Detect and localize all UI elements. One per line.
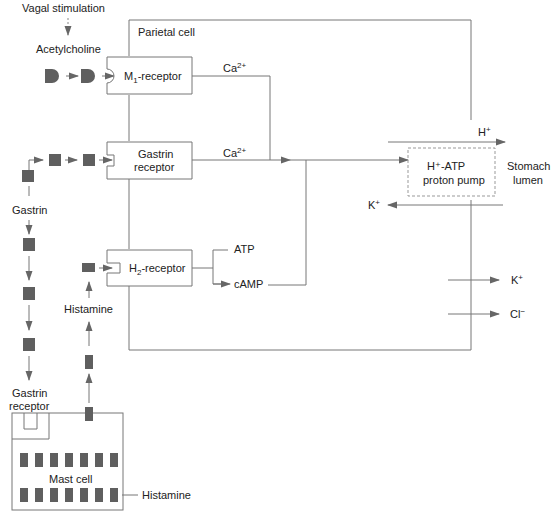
gastrin-label: Gastrin [12,204,47,216]
histamine-molecule [85,355,93,369]
arrow [29,160,43,170]
k-plus-in-label: K+ [368,198,380,211]
atp-branch [213,250,228,284]
gastrin-receptor-label-2: receptor [134,161,175,173]
acetylcholine-molecule-2 [81,69,95,83]
gastrin-molecule [23,338,35,351]
gastrin-molecule [23,287,35,300]
histamine-granule-releasing [85,407,93,421]
camp-join-line [268,160,306,285]
proton-pump-label-2: proton pump [423,174,485,186]
k-plus-out-label: K+ [511,273,523,286]
h-plus-label: H+ [478,125,491,138]
proton-pump-label-1: H⁺-ATP [427,160,465,172]
stomach-lumen-label-2: lumen [513,174,543,186]
gastrin-receptor-mast-label-1: Gastrin [12,387,47,399]
gastrin-receptor-mast-label-2: receptor [9,400,50,412]
acetylcholine-label: Acetylcholine [36,43,101,55]
vagal-stimulation-label: Vagal stimulation [22,2,105,14]
gastrin-molecule [22,170,34,182]
gastrin-molecule [83,154,95,166]
gastrin-molecule [23,238,35,251]
atp-label: ATP [234,243,255,255]
proton-pump-box [408,148,495,196]
histamine-granules-label: Histamine [142,489,191,501]
gastrin-molecule [49,154,61,166]
ca-label-1: Ca2+ [223,61,247,74]
acetylcholine-molecule-1 [45,69,59,83]
mast-cell-label: Mast cell [49,473,92,485]
gastrin-receptor-label-1: Gastrin [138,148,173,160]
stomach-lumen-label-1: Stomach [507,160,550,172]
mast-cell [12,407,123,510]
camp-label: cAMP [234,278,263,290]
cl-out-label: Cl− [510,307,525,320]
gastric-acid-secretion-diagram: Parietal cell Vagal stimulation Acetylch… [0,0,553,516]
parietal-cell-label: Parietal cell [138,26,195,38]
histamine-label-up: Histamine [64,303,113,315]
histamine-molecule [82,263,95,272]
ca-label-2: Ca2+ [223,146,247,159]
